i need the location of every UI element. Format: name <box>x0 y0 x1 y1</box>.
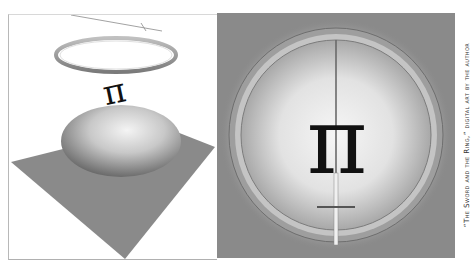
artwork-caption: “The Sword and the Ring,” digital art by… <box>462 43 471 227</box>
pi-symbol-small: π <box>99 69 129 113</box>
sword-ring-illustration: π <box>217 13 455 258</box>
ring-shape <box>56 38 176 72</box>
left-art-panel: π <box>8 14 217 260</box>
right-art-panel: π <box>217 13 455 258</box>
scene-3d-illustration: π <box>9 15 218 261</box>
dome-shape <box>61 105 181 177</box>
sword-line <box>71 15 162 31</box>
pi-symbol-large: π <box>307 88 367 195</box>
